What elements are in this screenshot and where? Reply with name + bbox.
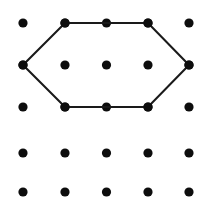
grid-dot [18, 148, 27, 157]
hexagon-vertex-dot [143, 102, 152, 111]
grid-dot [60, 187, 69, 196]
grid-dot [184, 148, 193, 157]
grid-dot [102, 148, 111, 157]
lattice-figure [0, 0, 207, 211]
grid-dot [184, 102, 193, 111]
grid-dot [60, 60, 69, 69]
hexagon-vertex-dot [143, 18, 152, 27]
hexagon-vertex-dot [184, 60, 193, 69]
grid-dot [143, 60, 152, 69]
hexagon-vertex-dot [18, 60, 27, 69]
grid-dot [18, 18, 27, 27]
grid-dot [60, 148, 69, 157]
grid-dot [143, 187, 152, 196]
hexagon-vertex-dot [60, 102, 69, 111]
hexagon-vertex-dot [60, 18, 69, 27]
lattice-canvas [0, 0, 207, 211]
grid-dot [143, 148, 152, 157]
grid-dot [184, 187, 193, 196]
grid-dot [18, 102, 27, 111]
grid-dot [102, 187, 111, 196]
grid-dot [18, 187, 27, 196]
grid-dot [102, 60, 111, 69]
grid-dot [184, 18, 193, 27]
